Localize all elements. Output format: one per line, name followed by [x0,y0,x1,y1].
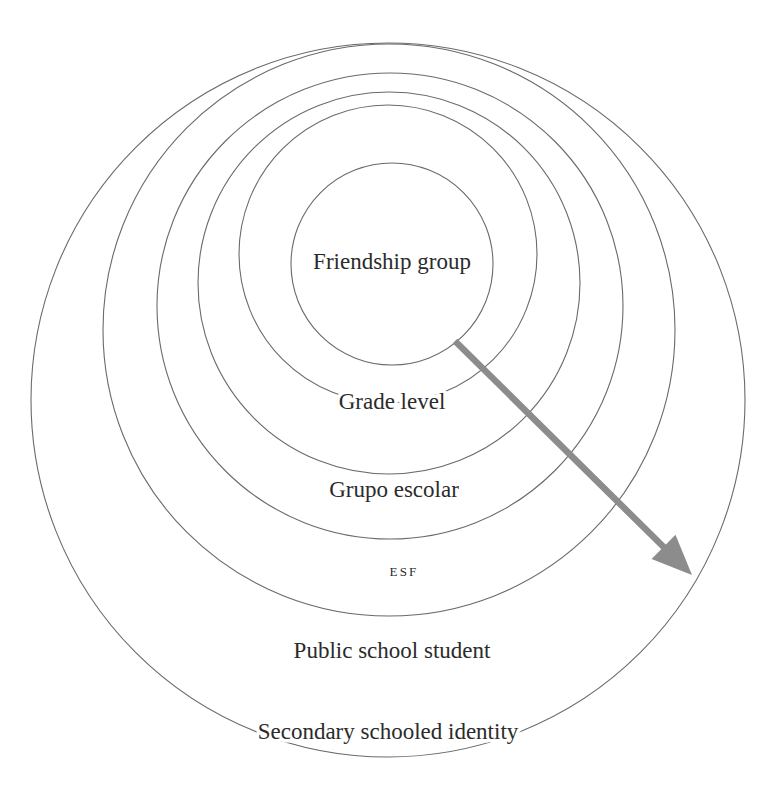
ring-label-third: Grupo escolar [329,477,459,502]
nested-circles-diagram: Friendship groupFriendship groupGrade le… [0,0,773,802]
ring-label-outermost: Secondary schooled identity [258,719,519,744]
ring-label-fourth: ESF [389,564,418,579]
ring-label-second: Grade level [339,389,446,414]
diagram-canvas: Friendship groupFriendship groupGrade le… [0,0,773,802]
ring-label-innermost: Friendship group [313,249,471,274]
ring-label-fifth: Public school student [294,638,491,663]
